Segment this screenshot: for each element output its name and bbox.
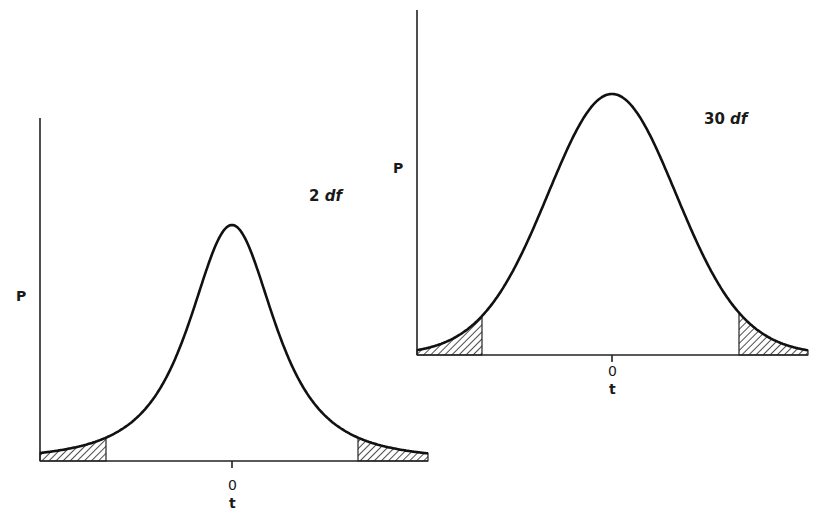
y-axis-label: P — [16, 289, 26, 303]
x-tick-label-zero: 0 — [608, 364, 617, 378]
x-axis-label: t — [609, 382, 616, 396]
x-axis-label: t — [229, 496, 236, 510]
density-curve — [417, 94, 808, 350]
x-tick-label-zero: 0 — [228, 478, 237, 492]
density-curve — [40, 225, 428, 453]
df-label: 30 df — [704, 112, 747, 127]
y-axis-label: P — [393, 161, 403, 175]
chart-2df — [40, 118, 428, 468]
chart-30df — [417, 10, 808, 362]
t-distribution-diagram — [0, 0, 829, 526]
df-label: 2 df — [309, 189, 342, 204]
